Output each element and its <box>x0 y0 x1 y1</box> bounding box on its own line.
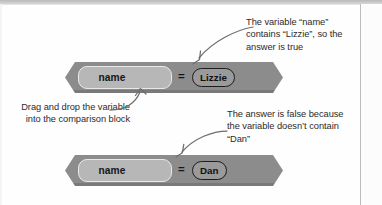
arrow-to-false-block-stem <box>182 131 227 152</box>
caption-false-explanation: The answer is false because the variable… <box>227 108 353 145</box>
scan-left-edge <box>0 4 2 205</box>
figure-canvas: The variable “name” contains “Lizzie”, s… <box>0 0 382 205</box>
scan-right-margin <box>361 4 382 205</box>
arrow-to-value-pill-stem <box>199 27 253 58</box>
value-input-lizzie[interactable]: Lizzie <box>192 68 235 87</box>
caption-drag-instruction: Drag and drop the variable into the comp… <box>8 101 130 126</box>
scan-top-band <box>0 0 382 5</box>
variable-label: name <box>79 165 171 176</box>
caption-true-explanation: The variable “name” contains “Lizzie”, s… <box>246 16 358 53</box>
value-label: Dan <box>200 166 219 176</box>
variable-label: name <box>79 72 171 83</box>
variable-reporter-name-true[interactable]: name <box>78 66 172 89</box>
value-input-dan[interactable]: Dan <box>192 161 227 180</box>
comparison-block-false[interactable]: name = Dan <box>65 155 283 186</box>
equals-operator-false: = <box>178 163 185 175</box>
variable-reporter-name-false[interactable]: name <box>78 159 172 182</box>
value-label: Lizzie <box>200 73 227 83</box>
equals-operator-true: = <box>178 70 185 82</box>
comparison-block-true[interactable]: name = Lizzie <box>65 62 283 93</box>
scan-right-rule <box>360 4 361 205</box>
